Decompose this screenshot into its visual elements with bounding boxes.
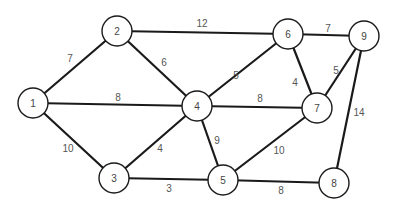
edge-3-4 [114, 106, 197, 178]
edge-4-6 [197, 34, 288, 106]
node-1: 1 [18, 88, 48, 118]
node-label-1: 1 [30, 98, 36, 109]
node-label-7: 7 [314, 103, 320, 114]
edge-1-2 [33, 31, 117, 103]
edge-weight-label-6-7: 4 [292, 77, 298, 88]
weighted-graph-diagram: 78101264358974510814 123456789 [0, 0, 396, 207]
edge-5-7 [223, 108, 317, 180]
edge-weight-label-4-6: 5 [233, 70, 239, 81]
nodes-layer: 123456789 [18, 16, 379, 198]
node-2: 2 [102, 16, 132, 46]
edge-1-3 [33, 103, 114, 178]
node-label-5: 5 [220, 175, 226, 186]
edge-weight-label-5-8: 8 [278, 185, 284, 196]
node-label-4: 4 [194, 101, 200, 112]
edge-weight-label-5-7: 10 [273, 145, 285, 156]
edge-1-4 [33, 103, 197, 106]
node-6: 6 [273, 19, 303, 49]
node-label-6: 6 [285, 29, 291, 40]
node-8: 8 [319, 168, 349, 198]
edge-weight-label-6-9: 7 [325, 23, 331, 34]
edge-2-6 [117, 31, 288, 34]
edge-weight-label-3-4: 4 [157, 143, 163, 154]
edge-weight-label-1-2: 7 [67, 53, 73, 64]
node-label-8: 8 [331, 178, 337, 189]
edge-2-4 [117, 31, 197, 106]
edge-weight-label-4-5: 9 [214, 135, 220, 146]
node-label-9: 9 [361, 31, 367, 42]
node-label-2: 2 [114, 26, 120, 37]
node-3: 3 [99, 163, 129, 193]
node-5: 5 [208, 165, 238, 195]
edge-weight-label-2-6: 12 [196, 18, 208, 29]
node-7: 7 [302, 93, 332, 123]
edge-weight-label-1-3: 10 [62, 143, 74, 154]
edge-weight-label-7-9: 5 [333, 65, 339, 76]
edge-5-8 [223, 180, 334, 183]
node-9: 9 [349, 21, 379, 51]
edge-weight-label-4-7: 8 [257, 93, 263, 104]
edge-4-7 [197, 106, 317, 108]
node-4: 4 [182, 91, 212, 121]
edge-weight-label-8-9: 14 [353, 107, 365, 118]
node-label-3: 3 [111, 173, 117, 184]
edge-weight-label-3-5: 3 [166, 183, 172, 194]
edge-weight-label-2-4: 6 [161, 57, 167, 68]
edge-weight-label-1-4: 8 [115, 92, 121, 103]
edge-3-5 [114, 178, 223, 180]
